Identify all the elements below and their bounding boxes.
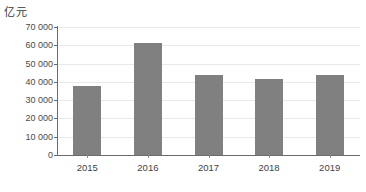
y-axis-tick-label: 30 000 [25, 95, 53, 105]
x-axis-tick-mark [148, 155, 149, 158]
y-axis-tick-label: 70 000 [25, 22, 53, 32]
y-axis-tick-label: 40 000 [25, 77, 53, 87]
y-axis-tick-label: 10 000 [25, 132, 53, 142]
y-axis-tick-label: 50 000 [25, 59, 53, 69]
y-axis-unit-label: 亿元 [4, 3, 27, 19]
x-axis-tick-label: 2015 [65, 162, 109, 173]
y-axis-tick-labels: 010 00020 00030 00040 00050 00060 00070 … [0, 27, 366, 155]
x-axis-tick-mark [330, 155, 331, 158]
x-axis-tick-mark [269, 155, 270, 158]
y-axis-tick-label: 0 [48, 150, 53, 160]
y-axis-tick-label: 60 000 [25, 40, 53, 50]
x-axis-tick-mark [209, 155, 210, 158]
y-axis-line [57, 26, 58, 156]
x-axis-tick-label: 2018 [247, 162, 291, 173]
x-axis-tick-mark [87, 155, 88, 158]
y-axis-tick-label: 20 000 [25, 113, 53, 123]
x-axis-tick-label: 2017 [187, 162, 231, 173]
bar-chart: 亿元 010 00020 00030 00040 00050 00060 000… [0, 0, 366, 192]
x-axis-tick-label: 2019 [308, 162, 352, 173]
x-axis-tick-label: 2016 [126, 162, 170, 173]
